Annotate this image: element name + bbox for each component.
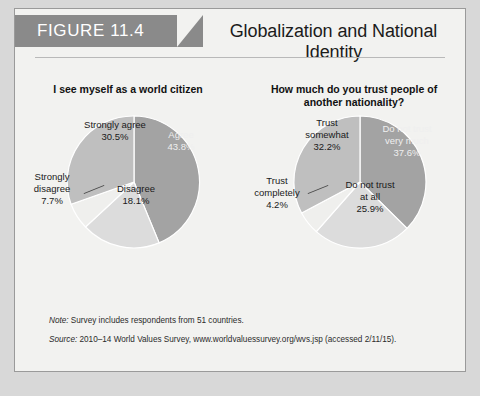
figure-number-label: FIGURE 11.4 bbox=[37, 21, 144, 41]
pie-label-strongly-disagree-name-line2: disagree bbox=[21, 183, 83, 195]
pie-label-trust-completely-value: 4.2% bbox=[243, 199, 311, 211]
chart-title-world-citizen: I see myself as a world citizen bbox=[27, 83, 229, 96]
pie-label-trust-somewhat-line2: somewhat bbox=[289, 129, 365, 141]
pie-label-do-not-trust-at-all: Do not trust at all 25.9% bbox=[333, 179, 407, 215]
pie-label-strongly-disagree-name-line1: Strongly bbox=[21, 171, 83, 183]
figure-source: Source: 2010–14 World Values Survey, www… bbox=[49, 334, 445, 345]
pie-label-dntvm-line2: very much bbox=[371, 135, 443, 147]
pie-label-dntvm-line1: Do not trust bbox=[371, 123, 443, 135]
chart-world-citizen: I see myself as a world citizen Agree 43… bbox=[15, 65, 241, 295]
pie-label-strongly-agree-name: Strongly agree bbox=[69, 119, 161, 131]
figure-note-prefix: Note: bbox=[49, 316, 69, 325]
figure-source-prefix: Source: bbox=[49, 335, 77, 344]
pie-label-disagree: Disagree 18.1% bbox=[103, 183, 169, 207]
pie-label-dnta-value: 25.9% bbox=[333, 203, 407, 215]
pie-label-do-not-trust-very-much: Do not trust very much 37.6% bbox=[371, 123, 443, 159]
figure-note: Note: Survey includes respondents from 5… bbox=[49, 315, 445, 326]
title-divider bbox=[35, 57, 445, 58]
pie-label-trust-somewhat-value: 32.2% bbox=[289, 141, 365, 153]
pie-label-disagree-name: Disagree bbox=[103, 183, 169, 195]
pie-label-trust-somewhat: Trust somewhat 32.2% bbox=[289, 117, 365, 153]
figure-number-banner-wedge bbox=[177, 15, 203, 47]
chart-title-trust-line2: another nationality? bbox=[253, 96, 455, 109]
figure-box: FIGURE 11.4 Globalization and National I… bbox=[14, 8, 466, 372]
pie-label-dntvm-value: 37.6% bbox=[371, 147, 443, 159]
pie-label-strongly-agree-value: 30.5% bbox=[69, 131, 161, 143]
pie-label-disagree-value: 18.1% bbox=[103, 195, 169, 207]
pie-label-trust-somewhat-line1: Trust bbox=[289, 117, 365, 129]
figure-header: FIGURE 11.4 Globalization and National I… bbox=[15, 9, 465, 55]
pie-label-trust-completely: Trust completely 4.2% bbox=[243, 175, 311, 211]
chart-title-trust: How much do you trust people of another … bbox=[253, 83, 455, 109]
pie-label-trust-completely-line2: completely bbox=[243, 187, 311, 199]
figure-source-text: 2010–14 World Values Survey, www.worldva… bbox=[77, 335, 396, 344]
charts-area: I see myself as a world citizen Agree 43… bbox=[15, 65, 465, 295]
pie-label-strongly-disagree-value: 7.7% bbox=[21, 195, 83, 207]
pie-label-dnta-line1: Do not trust bbox=[333, 179, 407, 191]
pie-label-dnta-line2: at all bbox=[333, 191, 407, 203]
chart-trust-other-nationality: How much do you trust people of another … bbox=[241, 65, 466, 295]
figure-note-text: Survey includes respondents from 51 coun… bbox=[69, 316, 244, 325]
pie-label-strongly-agree: Strongly agree 30.5% bbox=[69, 119, 161, 143]
pie-label-trust-completely-line1: Trust bbox=[243, 175, 311, 187]
figure-footer: Note: Survey includes respondents from 5… bbox=[49, 315, 445, 353]
pie-label-strongly-disagree: Strongly disagree 7.7% bbox=[21, 171, 83, 207]
chart-title-trust-line1: How much do you trust people of bbox=[253, 83, 455, 96]
